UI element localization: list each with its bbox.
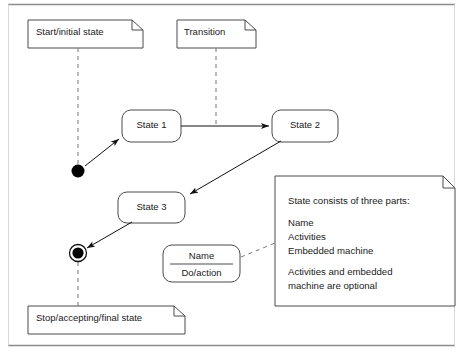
note-state-parts-part-3: Embedded machine — [288, 245, 373, 257]
note-state-parts-part-2: Activities — [288, 231, 326, 243]
state-label-sample-action: Do/action — [163, 267, 240, 279]
note-state-parts-anchor-line — [241, 243, 275, 257]
state-diagram-figure: Start/initial state Transition Stop/acce… — [0, 0, 467, 352]
note-state-parts-part-1: Name — [288, 217, 314, 229]
diagram-canvas — [0, 0, 467, 352]
note-start-label: Start/initial state — [36, 26, 104, 38]
state-label-state2: State 2 — [272, 119, 338, 131]
transition-initial-to-state1 — [85, 139, 119, 166]
transition-state2-to-state3 — [190, 141, 281, 194]
note-state-parts-footer-line-1: Activities and embedded — [288, 266, 393, 278]
note-transition-label: Transition — [184, 26, 225, 38]
state-label-sample-name: Name — [163, 250, 240, 262]
state-label-state3: State 3 — [118, 201, 185, 213]
transition-state3-to-final — [87, 222, 132, 248]
note-state-parts-footer-line-2: machine are optional — [288, 280, 377, 292]
state-label-state1: State 1 — [122, 119, 181, 131]
final-state-marker-core — [72, 247, 83, 258]
initial-state-marker — [72, 165, 85, 178]
note-state-parts-heading: State consists of three parts: — [288, 195, 410, 207]
note-stop-label: Stop/accepting/final state — [36, 312, 142, 324]
